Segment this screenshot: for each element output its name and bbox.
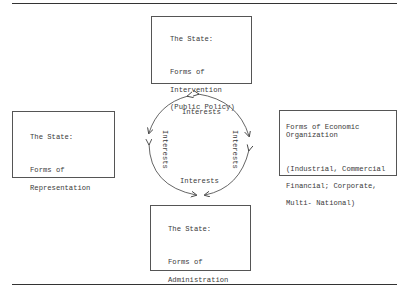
interests-label-right: Interests xyxy=(231,130,239,169)
arc-bottom-left-arrow xyxy=(149,144,196,195)
arc-bottom-right-arrow xyxy=(205,150,249,195)
interests-label-left: Interests xyxy=(161,130,169,169)
interests-label-top: Interests xyxy=(182,108,221,116)
interests-cycle: Interests Interests Interests Interests xyxy=(0,0,405,289)
interests-label-bottom: Interests xyxy=(180,177,219,185)
